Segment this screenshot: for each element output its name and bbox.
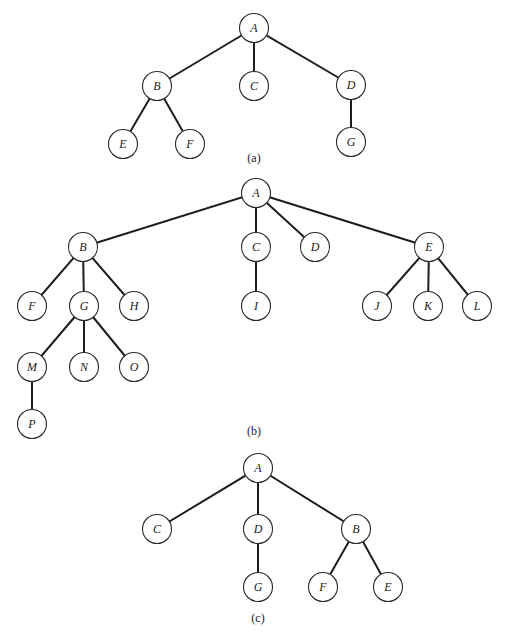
node-b-f: F — [18, 292, 47, 321]
node-a-e: E — [109, 130, 138, 159]
tree-figure: ABCDEFG (a) ABCDEFGHIJKLMNOP (b) ACDBGFE… — [0, 0, 510, 638]
node-label: L — [473, 299, 481, 313]
edge-c-a-c — [157, 468, 258, 529]
node-label: D — [253, 522, 263, 536]
node-b-e: E — [415, 233, 444, 262]
node-label: G — [254, 580, 263, 594]
tree-b-caption: (b) — [247, 424, 261, 438]
edge-b-a-e — [256, 193, 429, 247]
node-label: E — [118, 137, 127, 151]
node-b-c: C — [242, 233, 271, 262]
node-a-d: D — [337, 71, 366, 100]
node-label: C — [153, 522, 162, 536]
node-label: H — [129, 299, 140, 313]
node-c-b: B — [342, 515, 371, 544]
node-b-a: A — [242, 179, 271, 208]
node-b-o: O — [120, 353, 149, 382]
tree-c: ACDBGFE (c) — [143, 454, 403, 626]
tree-b-nodes: ABCDEFGHIJKLMNOP — [18, 179, 492, 439]
node-a-b: B — [143, 72, 172, 101]
node-label: B — [153, 79, 161, 93]
node-label: A — [251, 186, 260, 200]
node-label: A — [253, 461, 262, 475]
node-c-c: C — [143, 515, 172, 544]
node-b-l: L — [463, 292, 492, 321]
node-label: D — [310, 240, 320, 254]
tree-diagrams-svg: ABCDEFG (a) ABCDEFGHIJKLMNOP (b) ACDBGFE… — [0, 0, 510, 638]
node-a-g: G — [337, 128, 366, 157]
node-label: B — [352, 522, 360, 536]
node-a-a: A — [240, 14, 269, 43]
node-label: C — [252, 240, 261, 254]
tree-c-nodes: ACDBGFE — [143, 454, 403, 602]
node-label: G — [347, 135, 356, 149]
tree-a: ABCDEFG (a) — [109, 14, 366, 166]
edge-a-a-b — [157, 28, 254, 86]
node-label: D — [346, 78, 356, 92]
node-label: F — [185, 137, 194, 151]
node-label: B — [79, 240, 87, 254]
node-b-k: K — [414, 292, 443, 321]
node-label: P — [27, 417, 36, 431]
node-b-h: H — [120, 292, 149, 321]
tree-a-nodes: ABCDEFG — [109, 14, 366, 159]
node-b-d: D — [301, 233, 330, 262]
edge-b-a-b — [83, 193, 256, 247]
edge-c-a-b — [258, 468, 356, 529]
tree-b: ABCDEFGHIJKLMNOP (b) — [18, 179, 492, 439]
node-label: N — [79, 360, 89, 374]
node-c-d: D — [244, 515, 273, 544]
node-b-n: N — [70, 353, 99, 382]
node-label: G — [80, 299, 89, 313]
node-c-f: F — [309, 573, 338, 602]
node-b-p: P — [18, 410, 47, 439]
node-label: J — [374, 299, 380, 313]
edge-a-a-d — [254, 28, 351, 85]
tree-a-caption: (a) — [247, 151, 260, 165]
node-label: O — [130, 360, 139, 374]
node-label: F — [27, 299, 36, 313]
node-label: E — [424, 240, 433, 254]
node-b-g: G — [70, 292, 99, 321]
node-c-a: A — [244, 454, 273, 483]
node-a-f: F — [176, 130, 205, 159]
node-label: K — [423, 299, 433, 313]
node-label: M — [26, 360, 38, 374]
node-label: F — [318, 580, 327, 594]
node-c-e: E — [374, 573, 403, 602]
node-a-c: C — [240, 72, 269, 101]
node-b-b: B — [69, 233, 98, 262]
node-label: A — [249, 21, 258, 35]
node-b-m: M — [18, 353, 47, 382]
node-b-i: I — [242, 292, 271, 321]
node-label: E — [383, 580, 392, 594]
node-b-j: J — [363, 292, 392, 321]
node-c-g: G — [244, 573, 273, 602]
tree-c-caption: (c) — [251, 611, 264, 625]
node-label: C — [250, 79, 259, 93]
